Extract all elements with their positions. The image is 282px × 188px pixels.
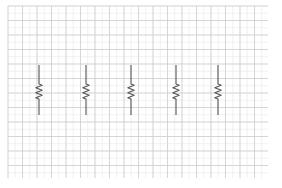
graph-paper-diagram [0,0,282,188]
